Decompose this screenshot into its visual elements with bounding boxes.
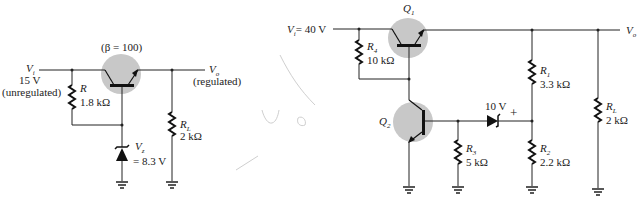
input-voltage-label: Vi= 40 V [287, 23, 326, 38]
zener-diode-icon [115, 125, 129, 181]
r2-name: R2 [539, 142, 551, 157]
zener-name: Vz [135, 140, 145, 155]
r4-value: 10 kΩ [367, 54, 394, 66]
series-regulator-circuit: Vi 15 V (unregulated) (β = 100) R 1.8 kΩ… [2, 41, 242, 188]
ground-icon [403, 187, 415, 193]
circuit-diagrams: Vi 15 V (unregulated) (β = 100) R 1.8 kΩ… [0, 0, 639, 199]
resistor-r-name: R [79, 82, 87, 94]
ground-icon [452, 187, 464, 193]
resistor-r3-icon [455, 121, 461, 186]
r3-name: R3 [465, 142, 477, 157]
q2-label: Q2 [379, 115, 391, 130]
output-note: (regulated) [193, 75, 242, 88]
output-voltage-label: Vo [626, 24, 637, 39]
zener-polarity: + [510, 105, 517, 120]
resistor-r-value: 1.8 kΩ [80, 96, 110, 108]
ground-icon [116, 182, 128, 188]
beta-label: (β = 100) [101, 41, 142, 54]
ground-icon [526, 187, 538, 193]
junction-dot [408, 78, 411, 81]
resistor-rl-icon [595, 30, 601, 188]
input-note: (unregulated) [2, 86, 62, 99]
rl-value: 2 kΩ [606, 114, 628, 126]
feedback-regulator-circuit: Vi= 40 V Q1 Q2 R4 10 kΩ R3 5 kΩ 10 V + R… [287, 2, 637, 195]
resistor-r1-icon [529, 30, 535, 121]
r2-value: 2.2 kΩ [540, 156, 570, 168]
rl-name: RL [605, 100, 617, 115]
resistor-rl-icon [169, 70, 175, 181]
input-voltage-value: 15 V [19, 74, 41, 86]
q1-label: Q1 [403, 2, 414, 17]
zener-value: 10 V [485, 100, 507, 112]
ground-icon [166, 182, 178, 188]
q2-highlight [393, 102, 433, 142]
resistor-r2-icon [529, 121, 535, 186]
r4-name: R4 [366, 40, 378, 55]
load-resistor-value: 2 kΩ [180, 130, 202, 142]
handwritten-marks [236, 55, 315, 170]
ground-icon [592, 189, 604, 195]
zener-value: = 8.3 V [133, 155, 166, 167]
r1-name: R1 [539, 64, 550, 79]
r1-value: 3.3 kΩ [540, 78, 570, 90]
q1-highlight [388, 18, 428, 58]
r3-value: 5 kΩ [466, 156, 488, 168]
